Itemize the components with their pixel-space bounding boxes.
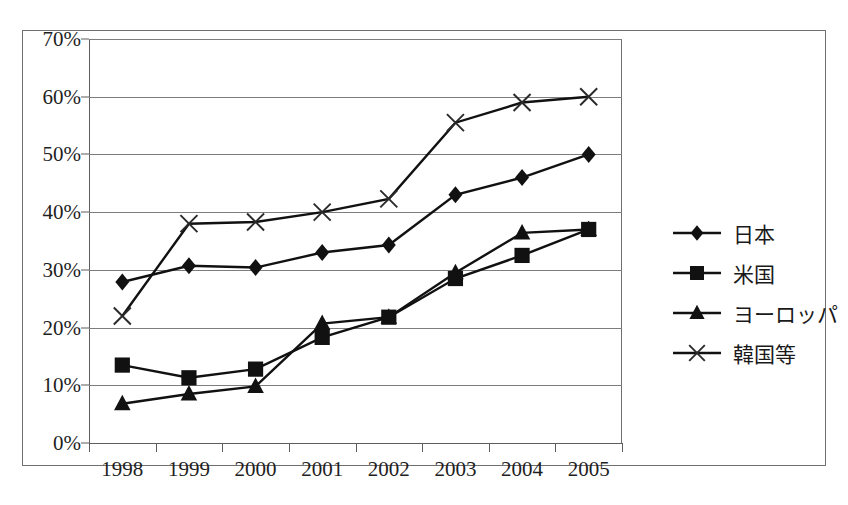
legend-marker-square-icon xyxy=(671,262,723,284)
x-tick-mark xyxy=(422,443,423,452)
chart-legend: 日本米国ヨーロッパ韓国等 xyxy=(671,213,843,373)
y-tick-label: 20% xyxy=(43,315,82,340)
plot-area: 19981999200020012002200320042005 xyxy=(89,39,622,443)
data-point-0-3 xyxy=(315,244,329,261)
y-tick-mark xyxy=(81,154,89,155)
data-point-0-4 xyxy=(382,237,396,254)
data-point-0-1 xyxy=(182,257,196,274)
data-point-1-0 xyxy=(115,357,130,372)
legend-label-0: 日本 xyxy=(733,218,775,248)
legend-label-3: 韓国等 xyxy=(733,338,796,368)
y-tick-label: 50% xyxy=(43,142,82,167)
x-tick-label-1998: 1998 xyxy=(101,457,143,482)
y-tick-label: 30% xyxy=(43,257,82,282)
x-tick-mark xyxy=(289,443,290,452)
y-tick-mark xyxy=(81,96,89,97)
legend-marker-triangle-icon xyxy=(671,302,723,324)
data-point-0-7 xyxy=(582,146,596,163)
legend-label-1: 米国 xyxy=(733,258,775,288)
y-tick-label: 70% xyxy=(43,27,82,52)
legend-marker-x-icon xyxy=(671,342,723,364)
y-tick-mark xyxy=(81,385,89,386)
y-tick-mark xyxy=(81,269,89,270)
x-tick-label-1999: 1999 xyxy=(168,457,210,482)
y-tick-label: 60% xyxy=(43,84,82,109)
chart-frame: 0%10%20%30%40%50%60%70% 1998199920002001… xyxy=(22,30,826,466)
y-axis-labels: 0%10%20%30%40%50%60%70% xyxy=(23,39,81,443)
data-point-1-2 xyxy=(248,362,263,377)
y-tick-label: 0% xyxy=(53,431,81,456)
legend-item-2[interactable]: ヨーロッパ xyxy=(671,293,843,333)
series-layer xyxy=(89,39,622,443)
series-line-3 xyxy=(122,97,588,316)
data-point-0-5 xyxy=(448,186,462,203)
x-tick-label-2004: 2004 xyxy=(501,457,543,482)
data-point-0-0 xyxy=(115,273,129,290)
y-tick-mark xyxy=(81,443,89,444)
y-tick-label: 10% xyxy=(43,373,82,398)
x-tick-mark xyxy=(356,443,357,452)
y-tick-mark xyxy=(81,212,89,213)
y-tick-mark xyxy=(81,39,89,40)
x-tick-label-2003: 2003 xyxy=(434,457,476,482)
x-tick-mark xyxy=(489,443,490,452)
x-tick-mark xyxy=(622,443,623,452)
legend-label-2: ヨーロッパ xyxy=(733,298,838,328)
x-tick-mark xyxy=(156,443,157,452)
data-point-0-2 xyxy=(249,259,263,276)
legend-marker-diamond-icon xyxy=(671,222,723,244)
x-tick-label-2002: 2002 xyxy=(368,457,410,482)
y-tick-mark xyxy=(81,327,89,328)
x-tick-label-2005: 2005 xyxy=(568,457,610,482)
legend-item-0[interactable]: 日本 xyxy=(671,213,843,253)
data-point-3-0 xyxy=(114,308,131,325)
legend-item-3[interactable]: 韓国等 xyxy=(671,333,843,373)
legend-item-1[interactable]: 米国 xyxy=(671,253,843,293)
y-tick-label: 40% xyxy=(43,200,82,225)
data-point-1-1 xyxy=(181,370,196,385)
x-tick-mark xyxy=(555,443,556,452)
data-point-1-6 xyxy=(514,248,529,263)
data-point-0-6 xyxy=(515,169,529,186)
x-tick-label-2000: 2000 xyxy=(235,457,277,482)
x-tick-label-2001: 2001 xyxy=(301,457,343,482)
data-point-1-3 xyxy=(315,330,330,345)
x-tick-mark xyxy=(89,443,90,452)
data-point-3-5 xyxy=(447,114,464,131)
x-tick-mark xyxy=(222,443,223,452)
